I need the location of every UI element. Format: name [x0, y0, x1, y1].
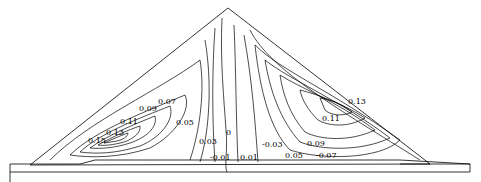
label-right-009: 0.09	[307, 139, 325, 148]
foundation-line	[10, 164, 470, 182]
contour-left-005	[50, 60, 202, 160]
label-right-011: 0.11	[322, 114, 340, 123]
label-center-001: 0.01	[240, 153, 258, 162]
contour-right-2	[265, 60, 390, 148]
contour-left-2	[80, 106, 171, 153]
label-left-005: 0.05	[176, 118, 194, 127]
label-left-013: 0.13	[106, 128, 124, 137]
label-center-m001: -0.01	[210, 153, 231, 162]
label-left-007: 0.07	[158, 97, 176, 106]
label-left-009: 0.09	[139, 104, 157, 113]
contour-lines	[50, 18, 420, 172]
label-center-m003: -0.03	[262, 140, 283, 149]
dam-base-line	[30, 164, 430, 165]
label-left-003: 0.03	[199, 137, 217, 146]
contour-001	[234, 25, 238, 162]
dam-contour-diagram: 0.07 0.09 0.11 0.13 0.15 0.05 0.03 0 -0.…	[0, 0, 481, 182]
label-right-013: 0.13	[348, 97, 366, 106]
label-right-005: 0.05	[285, 151, 303, 160]
label-center-0: 0	[226, 128, 231, 137]
contour-zero	[221, 18, 227, 172]
label-left-011: 0.11	[120, 117, 138, 126]
label-left-015: 0.15	[88, 136, 106, 145]
label-right-m007: -0.07	[316, 151, 337, 160]
